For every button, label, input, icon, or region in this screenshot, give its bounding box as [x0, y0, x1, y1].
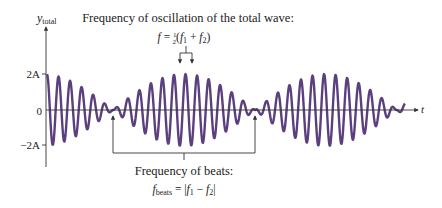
top-bracket	[180, 46, 192, 63]
y-axis-label: ytotal	[36, 11, 57, 26]
bottom-annotation-title: Frequency of beats:	[135, 164, 234, 178]
y-tick-label-2a: 2A	[27, 68, 41, 80]
y-tick-label-minus-2a: −2A	[20, 139, 40, 151]
bottom-annotation-formula: fbeats = |f1 − f2|	[152, 183, 215, 197]
top-annotation-title: Frequency of oscillation of the total wa…	[82, 11, 294, 25]
top-annotation-formula: f = 12(f1 + f2)	[158, 31, 211, 46]
y-tick-label-zero: 0	[37, 105, 43, 117]
beats-diagram: ytotal 2A 0 −2A t Frequency of oscillati…	[0, 0, 442, 208]
x-axis-label: t	[421, 103, 425, 115]
